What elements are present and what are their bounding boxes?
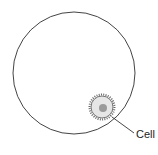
- nucleus: [99, 104, 107, 112]
- diagram-canvas: [0, 0, 158, 155]
- leader-line: [112, 117, 134, 133]
- cell-icon: [90, 95, 115, 120]
- outer-circle: [13, 12, 135, 134]
- cell-label: Cell: [136, 128, 155, 140]
